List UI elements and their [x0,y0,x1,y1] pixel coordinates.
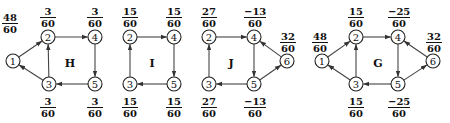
fraction-H-node-4: 360 [80,6,110,29]
node-number: 3 [206,79,212,90]
fraction-G-node-1: 4860 [305,31,335,54]
node-number: 2 [127,32,133,43]
node-number: 5 [92,79,98,90]
fraction-denominator: 60 [194,18,224,29]
fraction-G-node-3: 1560 [341,96,371,119]
fraction-denominator: 60 [115,18,145,29]
fraction-numerator: −25 [388,6,410,18]
node-H-1: 1 [6,54,20,68]
node-number: 3 [46,79,52,90]
fraction-G-node-4: −2560 [384,6,414,29]
node-I-3: 3 [123,77,137,91]
fraction-denominator: 60 [80,108,110,119]
node-H-5: 5 [88,77,102,91]
fraction-numerator: 15 [166,6,182,18]
node-number: 4 [171,32,177,43]
fraction-numerator: 15 [122,96,138,108]
node-number: 5 [395,79,401,90]
diagram-label-G: G [373,57,382,70]
fraction-denominator: 60 [240,18,270,29]
node-number: 3 [127,79,133,90]
diagram-label-J: J [228,57,233,70]
fraction-H-node-3: 360 [33,96,63,119]
fraction-denominator: 60 [33,18,63,29]
node-G-4: 4 [391,30,405,44]
fraction-numerator: −13 [244,6,266,18]
node-G-2: 2 [349,30,363,44]
node-G-3: 3 [349,77,363,91]
fraction-denominator: 60 [341,108,371,119]
fraction-denominator: 60 [341,18,371,29]
fraction-numerator: 32 [280,31,296,43]
edge-J-5-to-6 [260,65,281,80]
fraction-denominator: 60 [384,108,414,119]
fraction-denominator: 60 [240,108,270,119]
diagram-label-H: H [65,57,75,70]
fraction-G-node-2: 1560 [341,6,371,29]
node-number: 6 [284,56,290,67]
node-J-5: 5 [247,77,261,91]
fraction-denominator: 60 [273,43,303,54]
node-G-5: 5 [391,77,405,91]
edge-G-3-to-1 [328,65,350,80]
fraction-J-node-5: −1360 [240,96,270,119]
fraction-H-node-5: 360 [80,96,110,119]
fraction-denominator: 60 [194,108,224,119]
node-number: 1 [10,56,16,67]
edge-H-1-to-2 [19,41,42,57]
node-number: 3 [353,79,359,90]
fraction-denominator: 60 [0,24,25,35]
node-number: 4 [251,32,257,43]
fraction-numerator: 3 [87,96,103,108]
fraction-numerator: 32 [426,31,442,43]
fraction-denominator: 60 [33,108,63,119]
fraction-numerator: 48 [312,31,328,43]
node-I-5: 5 [167,77,181,91]
fraction-I-node-3: 1560 [115,96,145,119]
fraction-numerator: 15 [166,96,182,108]
fraction-denominator: 60 [419,43,449,54]
node-J-2: 2 [202,30,216,44]
fraction-J-node-3: 2760 [194,96,224,119]
node-number: 2 [45,32,51,43]
fraction-J-node-4: −1360 [240,6,270,29]
fraction-I-node-5: 1560 [159,96,189,119]
fraction-G-node-6: 3260 [419,31,449,54]
node-number: 4 [92,32,98,43]
fraction-I-node-4: 1560 [159,6,189,29]
edge-G-5-to-6 [404,65,427,80]
node-number: 4 [395,32,401,43]
fraction-denominator: 60 [159,108,189,119]
fraction-numerator: 3 [40,96,56,108]
fraction-numerator: 15 [122,6,138,18]
fraction-numerator: −13 [244,96,266,108]
node-H-4: 4 [88,30,102,44]
fraction-G-node-5: −2560 [384,96,414,119]
node-number: 2 [206,32,212,43]
fraction-numerator: −25 [388,96,410,108]
fraction-numerator: 48 [2,12,18,24]
fraction-H-node-1: 4860 [0,12,25,35]
node-J-3: 3 [202,77,216,91]
fraction-J-node-2: 2760 [194,6,224,29]
fraction-numerator: 27 [201,6,217,18]
node-J-6: 6 [280,54,294,68]
node-G-6: 6 [426,54,440,68]
node-number: 5 [251,79,257,90]
fraction-denominator: 60 [159,18,189,29]
node-J-4: 4 [247,30,261,44]
edge-H-3-to-1 [19,65,43,80]
fraction-denominator: 60 [80,18,110,29]
fraction-numerator: 15 [348,96,364,108]
fraction-denominator: 60 [115,108,145,119]
fraction-J-node-6: 3260 [273,31,303,54]
fraction-I-node-2: 1560 [115,6,145,29]
fraction-numerator: 3 [87,6,103,18]
node-number: 1 [319,56,325,67]
edge-H-3-to-2 [48,44,49,77]
fraction-H-node-2: 360 [33,6,63,29]
node-H-2: 2 [41,30,55,44]
node-H-3: 3 [42,77,56,91]
fraction-numerator: 3 [40,6,56,18]
fraction-numerator: 15 [348,6,364,18]
